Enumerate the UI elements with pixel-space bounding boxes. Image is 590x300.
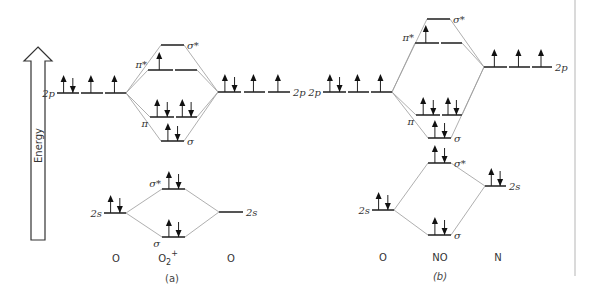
orbital-sigma-star-2p: σ* bbox=[427, 14, 465, 25]
orbital-label: σ bbox=[187, 136, 195, 147]
arrow-down-icon bbox=[337, 85, 343, 92]
orbital-label: π bbox=[140, 118, 148, 129]
arrow-down-icon bbox=[232, 85, 238, 92]
panel-caption: (b) bbox=[433, 271, 447, 282]
arrow-up-icon bbox=[275, 74, 281, 81]
species-label: NO bbox=[432, 252, 447, 263]
correlation-line bbox=[394, 163, 428, 210]
arrow-down-icon bbox=[117, 206, 123, 213]
energy-levels: 2p2pσ*π*πσ2s2sσ*σ bbox=[41, 40, 306, 249]
correlation-line bbox=[392, 43, 415, 92]
species-label: N bbox=[494, 252, 501, 263]
arrow-up-icon bbox=[154, 99, 160, 106]
arrow-down-icon bbox=[176, 182, 182, 189]
arrow-up-icon bbox=[327, 74, 333, 81]
arrow-down-icon bbox=[176, 230, 182, 237]
arrow-down-icon bbox=[164, 110, 170, 117]
arrow-up-icon bbox=[61, 75, 67, 82]
orbital-label: σ* bbox=[453, 14, 465, 25]
panel-b-no: 2p2pσ*π*πσσ*2s2sσ ONON (b) bbox=[307, 14, 568, 282]
arrow-down-icon bbox=[430, 108, 436, 115]
orbital-right-2s: 2s bbox=[219, 207, 258, 218]
orbital-label: σ bbox=[454, 230, 462, 241]
correlation-line bbox=[126, 189, 162, 213]
orbital-O-2p: 2p bbox=[307, 74, 392, 98]
orbital-label: σ* bbox=[149, 178, 161, 189]
orbital-label: 2p bbox=[41, 88, 55, 99]
orbital-label: 2s bbox=[508, 181, 521, 192]
arrow-down-icon bbox=[70, 86, 76, 93]
correlation-lines bbox=[392, 19, 485, 235]
arrow-up-icon bbox=[166, 171, 172, 178]
orbital-label: σ bbox=[153, 238, 161, 249]
orbital-sigma-star-2p: σ* bbox=[161, 40, 199, 51]
panel-a-o2-plus: 2p2pσ*π*πσ2s2sσ*σ OO2+O (a) bbox=[41, 40, 306, 284]
arrow-up-icon bbox=[488, 168, 494, 175]
arrow-up-icon bbox=[156, 52, 162, 59]
arrow-up-icon bbox=[515, 49, 521, 56]
arrow-down-icon bbox=[442, 156, 448, 163]
correlation-line bbox=[185, 212, 219, 237]
orbital-label: σ* bbox=[454, 158, 466, 169]
orbital-left-2p: 2p bbox=[41, 75, 126, 99]
orbital-pi-star-2p: π* bbox=[401, 25, 462, 43]
correlation-line bbox=[197, 70, 218, 92]
orbital-label: π* bbox=[134, 59, 147, 70]
arrow-down-icon bbox=[188, 110, 194, 117]
arrow-up-icon bbox=[222, 74, 228, 81]
panel-caption: (a) bbox=[165, 273, 179, 284]
arrow-up-icon bbox=[432, 145, 438, 152]
arrow-down-icon bbox=[385, 203, 391, 210]
orbital-N-2s: 2s bbox=[485, 168, 521, 192]
arrow-up-icon bbox=[445, 97, 451, 104]
orbital-label: σ bbox=[454, 133, 462, 144]
arrow-up-icon bbox=[88, 75, 94, 82]
correlation-line bbox=[392, 92, 416, 115]
arrow-up-icon bbox=[538, 49, 544, 56]
species-label: O2+ bbox=[158, 249, 178, 267]
orbital-N-2p: 2p bbox=[484, 49, 568, 73]
energy-axis-arrow: Energy bbox=[24, 47, 52, 240]
energy-levels: 2p2pσ*π*πσσ*2s2sσ bbox=[307, 14, 568, 241]
arrow-up-icon bbox=[111, 75, 117, 82]
arrow-up-icon bbox=[432, 120, 438, 127]
correlation-line bbox=[185, 189, 219, 212]
orbital-label: 2s bbox=[358, 205, 371, 216]
orbital-label: 2p bbox=[292, 87, 306, 98]
orbital-sigma-star-2s: σ* bbox=[428, 145, 466, 169]
energy-axis-label: Energy bbox=[33, 128, 44, 163]
orbital-label: 2s bbox=[245, 207, 258, 218]
arrow-up-icon bbox=[377, 74, 383, 81]
orbital-sigma-2s: σ bbox=[428, 217, 462, 241]
species-label: O bbox=[227, 253, 235, 264]
orbital-label: π* bbox=[401, 32, 414, 43]
correlation-line bbox=[197, 92, 218, 117]
orbital-pi-star-2p: π* bbox=[134, 52, 197, 70]
species-label: O bbox=[112, 253, 120, 264]
arrow-down-icon bbox=[442, 228, 448, 235]
orbital-label: 2p bbox=[554, 62, 568, 73]
orbital-label: π bbox=[406, 116, 414, 127]
correlation-line bbox=[394, 210, 428, 235]
orbital-sigma-2p: σ bbox=[428, 120, 462, 144]
arrow-down-icon bbox=[497, 179, 503, 186]
arrow-up-icon bbox=[491, 49, 497, 56]
species-label: O bbox=[379, 252, 387, 263]
correlation-line bbox=[126, 213, 162, 237]
arrow-up-icon bbox=[108, 195, 114, 202]
molecular-orbital-diagram: Energy 2p2pσ*π*πσ2s2sσ*σ OO2+O (a) 2p2pσ… bbox=[0, 0, 590, 300]
orbital-left-2s: 2s bbox=[90, 195, 127, 219]
species-labels: OO2+O bbox=[112, 249, 235, 267]
arrow-up-icon bbox=[166, 219, 172, 226]
arrow-up-icon bbox=[165, 123, 171, 130]
arrow-up-icon bbox=[420, 97, 426, 104]
orbital-sigma-2p: σ bbox=[161, 123, 195, 147]
correlation-line bbox=[126, 70, 148, 93]
arrow-up-icon bbox=[376, 192, 382, 199]
orbital-O-2s: 2s bbox=[358, 192, 395, 216]
arrow-up-icon bbox=[354, 74, 360, 81]
correlation-line bbox=[184, 45, 218, 92]
arrow-up-icon bbox=[179, 99, 185, 106]
correlation-line bbox=[126, 93, 150, 117]
orbital-right-2p: 2p bbox=[218, 74, 306, 98]
